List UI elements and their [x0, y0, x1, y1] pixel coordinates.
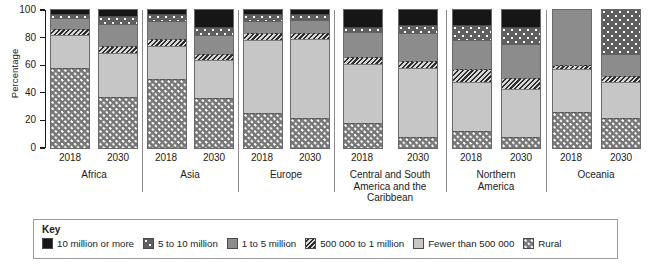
legend-swatch-1to5	[227, 238, 238, 249]
x-region-label: Oceania	[546, 163, 646, 181]
stacked-bar[interactable]	[51, 10, 89, 148]
bar-segment-rural	[195, 98, 233, 148]
bar-segment-1to5	[195, 35, 233, 54]
bar-segment-5to10	[244, 14, 282, 21]
legend-swatch-rural	[523, 238, 534, 249]
legend-item: Rural	[523, 238, 561, 249]
legend-title: Key	[42, 224, 617, 235]
stacked-bar[interactable]	[602, 10, 640, 148]
x-year-label: 2018	[549, 152, 593, 163]
x-year-label: 2018	[144, 152, 188, 163]
bar-group	[46, 10, 142, 148]
stacked-bar[interactable]	[553, 10, 591, 148]
x-group-label: 20182030Asia	[142, 150, 238, 204]
bar-segment-rural	[51, 68, 89, 148]
x-region-label: Central and SouthAmerica and theCaribbea…	[334, 163, 446, 204]
bar-group	[334, 10, 446, 148]
x-year-label: 2018	[340, 152, 384, 163]
x-axis-labels: 20182030Africa20182030Asia20182030Europe…	[46, 150, 646, 204]
stacked-bar[interactable]	[291, 10, 329, 148]
x-year-label: 2018	[48, 152, 92, 163]
x-year-label: 2030	[96, 152, 140, 163]
stacked-bar[interactable]	[399, 10, 437, 148]
bar-segment-1to5	[291, 20, 329, 34]
x-year-label: 2018	[449, 152, 493, 163]
bar-segment-500to1	[244, 33, 282, 40]
bar-segment-1to5	[99, 24, 137, 46]
bar-segment-1to5	[502, 44, 540, 77]
legend-box: Key 10 million or more5 to 10 million1 t…	[33, 219, 618, 259]
legend-swatch-under	[413, 238, 424, 249]
bar-segment-500to1	[453, 69, 491, 81]
legend-swatch-5to10	[143, 238, 154, 249]
legend-swatch-500to1	[305, 238, 316, 249]
legend-label: 10 million or more	[57, 238, 134, 249]
x-year-label: 2030	[288, 152, 332, 163]
bar-segment-5to10	[99, 16, 137, 24]
stacked-bar[interactable]	[502, 10, 540, 148]
legend-item: 5 to 10 million	[143, 238, 218, 249]
bar-segment-under	[502, 89, 540, 137]
plot-area	[46, 10, 646, 148]
bar-segment-500to1	[502, 78, 540, 89]
stacked-bar[interactable]	[344, 10, 382, 148]
x-group-label: 20182030Oceania	[546, 150, 646, 204]
bar-segment-rural	[291, 118, 329, 148]
bar-segment-rural	[553, 112, 591, 148]
stacked-bar[interactable]	[148, 10, 186, 148]
bar-segment-1to5	[344, 32, 382, 57]
bar-segment-5to10	[148, 14, 186, 21]
x-group-label: 20182030Africa	[46, 150, 142, 204]
bar-group	[446, 10, 546, 148]
bar-segment-under	[291, 39, 329, 118]
stacked-bar[interactable]	[244, 10, 282, 148]
x-year-label: 2030	[499, 152, 543, 163]
legend-item: Fewer than 500 000	[413, 238, 514, 249]
bar-segment-1to5	[148, 21, 186, 39]
stacked-bar[interactable]	[453, 10, 491, 148]
stacked-bar[interactable]	[195, 10, 233, 148]
legend-item: 10 million or more	[42, 238, 134, 249]
x-group-label: 20182030Europe	[238, 150, 334, 204]
bar-segment-under	[553, 69, 591, 112]
legend-label: 1 to 5 million	[242, 238, 296, 249]
x-year-label: 2030	[599, 152, 643, 163]
legend-label: 5 to 10 million	[158, 238, 218, 249]
legend-label: Rural	[538, 238, 561, 249]
x-year-label: 2018	[240, 152, 284, 163]
bar-segment-rural	[502, 137, 540, 148]
bar-segment-10m	[453, 10, 491, 25]
bar-segment-5to10	[453, 25, 491, 40]
bar-segment-under	[453, 82, 491, 132]
x-year-label: 2030	[396, 152, 440, 163]
bar-segment-500to1	[99, 46, 137, 53]
bar-segment-5to10	[195, 27, 233, 35]
bar-segment-1to5	[51, 18, 89, 29]
x-group-label: 20182030Central and SouthAmerica and the…	[334, 150, 446, 204]
bar-segment-under	[344, 64, 382, 123]
legend-swatch-10m	[42, 238, 53, 249]
x-region-label: Asia	[142, 163, 238, 181]
x-group-label: 20182030NorthernAmerica	[446, 150, 546, 204]
bar-segment-under	[602, 82, 640, 118]
bar-segment-1to5	[244, 21, 282, 33]
y-tick-label: 100	[12, 4, 36, 15]
bar-segment-1to5	[602, 54, 640, 76]
bar-group	[142, 10, 238, 148]
bar-segment-5to10	[399, 25, 437, 33]
bar-segment-rural	[602, 118, 640, 148]
x-region-label: Africa	[46, 163, 142, 181]
stacked-bar[interactable]	[99, 10, 137, 148]
bar-segment-rural	[399, 137, 437, 148]
bar-segment-rural	[148, 79, 186, 148]
bar-segment-5to10	[602, 10, 640, 54]
x-region-label: Europe	[238, 163, 334, 181]
bar-segment-under	[51, 35, 89, 68]
legend-items: 10 million or more5 to 10 million1 to 5 …	[42, 238, 617, 249]
bar-segment-10m	[399, 10, 437, 25]
bar-segment-500to1	[148, 39, 186, 46]
bar-segment-rural	[99, 97, 137, 148]
legend-label: 500 000 to 1 million	[320, 238, 404, 249]
legend-item: 1 to 5 million	[227, 238, 296, 249]
bar-segment-500to1	[399, 61, 437, 68]
